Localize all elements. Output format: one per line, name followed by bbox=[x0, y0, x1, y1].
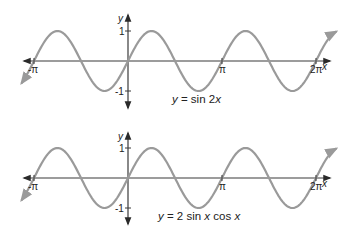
x-tick-label-2-0: -π bbox=[28, 181, 38, 192]
chart-1: -ππ2π1-1 y x y = sin 2x bbox=[22, 13, 336, 108]
y-tick-label-1-1: -1 bbox=[115, 86, 124, 97]
eq2-part1: = 2 sin bbox=[164, 210, 205, 222]
x-tick-label-2-1: π bbox=[219, 181, 226, 192]
eq1-rhs: = sin 2 bbox=[178, 93, 215, 105]
chart-2: -ππ2π1-1 y x y = 2 sin x cos x bbox=[22, 131, 336, 224]
y-axis-label-1: y bbox=[117, 13, 124, 24]
eq2-x2: x bbox=[233, 210, 241, 222]
eq1-x: x bbox=[214, 93, 222, 105]
eq2-part2: cos bbox=[210, 210, 234, 222]
x-tick-label-2-2: 2π bbox=[310, 181, 323, 192]
x-axis-label-1: x bbox=[321, 61, 328, 72]
y-tick-label-2-1: -1 bbox=[115, 203, 124, 214]
y-tick-label-1-0: 1 bbox=[119, 26, 125, 37]
equation-label-1: y = sin 2x bbox=[171, 93, 222, 105]
x-tick-label-1-2: 2π bbox=[310, 64, 323, 75]
equation-label-2: y = 2 sin x cos x bbox=[157, 210, 241, 222]
y-axis-label-2: y bbox=[117, 131, 124, 142]
chart-canvas: -ππ2π1-1 y x y = sin 2x -ππ2π1-1 y x y =… bbox=[0, 0, 344, 236]
x-axis-label-2: x bbox=[321, 178, 328, 189]
x-tick-label-1-0: -π bbox=[28, 64, 38, 75]
x-tick-label-1-1: π bbox=[219, 64, 226, 75]
y-tick-label-2-0: 1 bbox=[119, 143, 125, 154]
